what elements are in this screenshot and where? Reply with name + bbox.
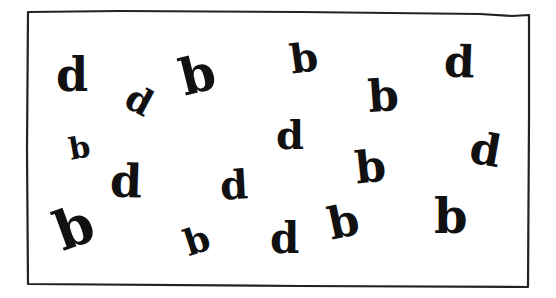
letter-b: b [287,36,320,80]
letter-d: d [219,164,249,205]
letter-d: d [270,218,299,260]
worksheet-canvas: ddbbbdbdddbdbbdbb [0,0,556,298]
letter-d: d [276,115,304,155]
letter-b: b [434,192,468,240]
letter-d: d [109,157,143,204]
letter-b: b [367,73,401,119]
letter-b: b [353,144,388,191]
letter-d: d [443,39,475,84]
letter-d: d [56,52,88,98]
